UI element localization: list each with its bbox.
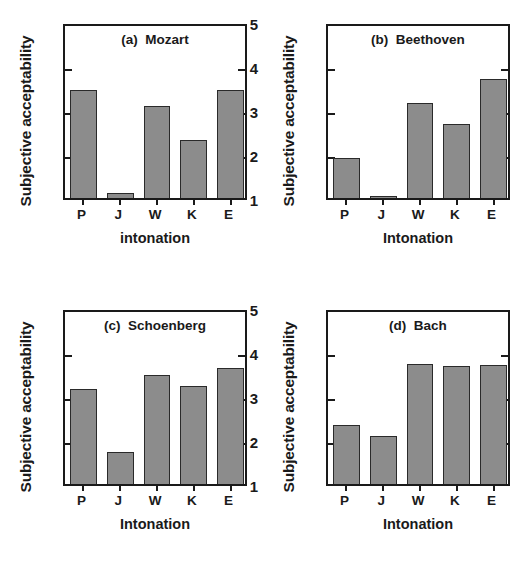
plot-inner [328, 26, 508, 198]
y-tick-label: 4 [218, 346, 258, 363]
bar-j [370, 436, 397, 484]
bar-k [443, 124, 470, 198]
y-tick-label: 3 [218, 104, 258, 121]
x-tick-label-w: W [149, 493, 162, 508]
x-tick-mark [193, 198, 195, 205]
y-tick-label: 5 [218, 16, 258, 33]
y-tick-mark [328, 69, 335, 71]
x-tick-mark [456, 484, 458, 491]
x-tick-mark [193, 484, 195, 491]
bar-w [144, 375, 171, 484]
x-tick-mark [82, 484, 84, 491]
y-tick-label: 1 [218, 478, 258, 495]
x-tick-label-j: J [114, 493, 122, 508]
x-tick-label-e: E [487, 493, 496, 508]
x-tick-mark [456, 198, 458, 205]
panel-a-mozart: Subjective acceptability(a) Mozart12345P… [0, 0, 263, 286]
x-tick-mark [82, 198, 84, 205]
plot-area: (b) Beethoven [326, 24, 510, 200]
x-tick-mark [493, 198, 495, 205]
bar-j [107, 452, 134, 484]
bar-p [333, 425, 360, 484]
bar-p [333, 158, 360, 198]
x-tick-label-p: P [340, 207, 349, 222]
x-tick-mark [345, 198, 347, 205]
y-tick-label: 2 [218, 148, 258, 165]
x-tick-mark [119, 198, 121, 205]
plot-inner [328, 312, 508, 484]
x-tick-mark [419, 484, 421, 491]
y-tick-label: 1 [218, 192, 258, 209]
x-tick-label-p: P [77, 493, 86, 508]
y-axis-title: Subjective acceptability [17, 21, 35, 221]
x-tick-mark [345, 484, 347, 491]
bar-w [407, 364, 434, 484]
bar-p [70, 90, 97, 198]
panel-c-schoenberg: Subjective acceptability(c) Schoenberg12… [0, 286, 263, 572]
bar-e [217, 368, 244, 484]
y-tick-mark [65, 69, 72, 71]
bar-k [180, 140, 207, 198]
panel-b-beethoven: Subjective acceptability(b) Beethoven123… [263, 0, 526, 286]
x-tick-label-k: K [450, 493, 460, 508]
y-axis-title: Subjective acceptability [280, 21, 298, 221]
x-axis-title: Intonation [326, 230, 510, 246]
y-axis-title: Subjective acceptability [280, 307, 298, 507]
bar-w [407, 103, 434, 198]
x-axis-title: Intonation [63, 516, 247, 532]
x-axis-title: intonation [63, 230, 247, 246]
x-tick-mark [382, 484, 384, 491]
x-tick-label-w: W [412, 493, 425, 508]
x-tick-label-w: W [412, 207, 425, 222]
figure-bar-chart-grid: Subjective acceptability(a) Mozart12345P… [0, 0, 526, 572]
x-tick-label-e: E [487, 207, 496, 222]
x-tick-label-k: K [187, 207, 197, 222]
y-tick-mark-right [501, 69, 508, 71]
y-tick-mark [65, 355, 72, 357]
y-tick-mark [328, 113, 335, 115]
bar-w [144, 106, 171, 198]
y-tick-mark [328, 355, 335, 357]
y-tick-label: 2 [218, 434, 258, 451]
y-tick-mark [328, 399, 335, 401]
x-tick-mark [119, 484, 121, 491]
y-tick-label: 4 [218, 60, 258, 77]
bar-e [480, 79, 507, 198]
x-tick-label-k: K [450, 207, 460, 222]
y-tick-mark-right [501, 355, 508, 357]
y-axis-title: Subjective acceptability [17, 307, 35, 507]
bar-e [480, 365, 507, 484]
x-tick-mark [156, 198, 158, 205]
y-tick-label: 3 [218, 390, 258, 407]
x-axis-title: Intonation [326, 516, 510, 532]
bar-p [70, 389, 97, 484]
x-tick-mark [493, 484, 495, 491]
x-tick-label-j: J [114, 207, 122, 222]
x-tick-label-j: J [377, 207, 385, 222]
x-tick-label-w: W [149, 207, 162, 222]
bar-k [180, 386, 207, 484]
x-tick-label-p: P [77, 207, 86, 222]
x-tick-label-e: E [224, 493, 233, 508]
plot-area: (d) Bach [326, 310, 510, 486]
x-tick-mark [156, 484, 158, 491]
x-tick-label-k: K [187, 493, 197, 508]
x-tick-mark [382, 198, 384, 205]
x-tick-label-j: J [377, 493, 385, 508]
x-tick-label-e: E [224, 207, 233, 222]
y-tick-label: 5 [218, 302, 258, 319]
x-tick-mark [419, 198, 421, 205]
bar-k [443, 366, 470, 484]
panel-d-bach: Subjective acceptability(d) Bach12345PJW… [263, 286, 526, 572]
x-tick-label-p: P [340, 493, 349, 508]
